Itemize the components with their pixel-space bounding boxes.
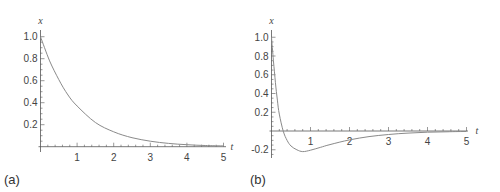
x-tick-label: 5 [464,136,470,147]
y-tick-label: 1.0 [255,32,269,43]
x-tick-label: 2 [111,152,117,163]
panel-label: (b) [250,172,266,187]
y-tick-label: 0.4 [255,88,269,99]
x-axis-label: t [476,125,479,136]
panel-label: (a) [4,172,20,187]
x-tick-label: 1 [308,136,314,147]
y-tick-label: 0.8 [255,51,269,62]
chart-figure: 123450.20.40.60.81.0xt(a)12345-0.20.20.4… [0,0,500,192]
x-tick-label: 1 [74,152,80,163]
x-tick-label: 3 [386,136,392,147]
y-axis-label: x [37,15,43,26]
data-curve [41,37,224,146]
y-tick-label: 0.8 [24,53,38,64]
data-curve [272,37,467,151]
x-tick-label: 3 [148,152,154,163]
x-tick-label: 4 [184,152,190,163]
y-tick-label: 1.0 [24,31,38,42]
y-tick-label: 0.6 [255,69,269,80]
y-tick-label: 0.2 [24,119,38,130]
x-tick-label: 4 [425,136,431,147]
y-tick-label: 0.6 [24,75,38,86]
y-axis-label: x [268,15,274,26]
y-tick-label: 0.2 [255,107,269,118]
y-tick-label: -0.2 [251,144,269,155]
x-axis-label: t [231,141,234,152]
x-tick-label: 5 [221,152,227,163]
x-tick-label: 2 [347,136,353,147]
y-tick-label: 0.4 [24,97,38,108]
